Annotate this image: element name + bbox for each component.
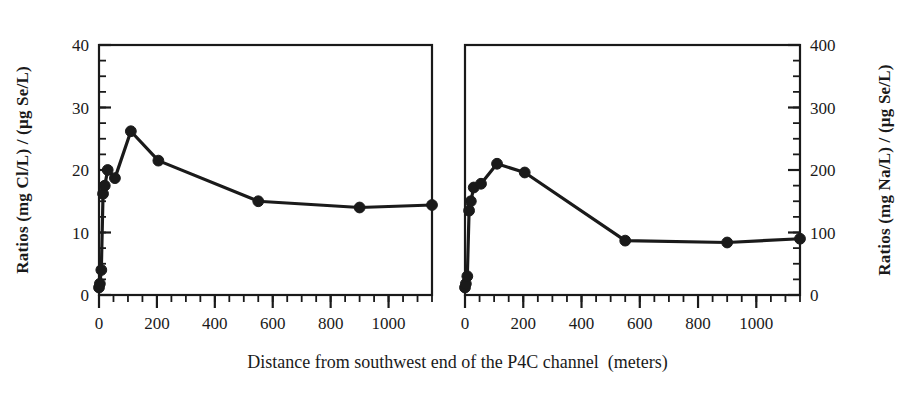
data-point	[125, 126, 136, 137]
data-point	[96, 265, 107, 276]
data-point	[476, 178, 487, 189]
x-tick-label: 600	[627, 314, 653, 333]
x-tick-label: 800	[318, 314, 344, 333]
data-point-markers	[94, 126, 438, 293]
y-tick-label: 0	[81, 286, 90, 305]
data-point	[94, 278, 105, 289]
line-chart-chloride-ratio: 01020304002004006008001000Ratios (mg Cl/…	[0, 0, 450, 345]
data-point	[427, 200, 438, 211]
data-point	[253, 196, 264, 207]
data-point	[99, 180, 110, 191]
y-axis-label: Ratios (mg Na/L) / (µg Se/L)	[875, 64, 894, 275]
y-tick-label: 100	[810, 224, 836, 243]
data-point	[519, 167, 530, 178]
x-axis-label: Distance from southwest end of the P4C c…	[0, 352, 915, 373]
data-point	[620, 235, 631, 246]
line-chart-sodium-ratio: 010020030040002004006008001000Ratios (mg…	[450, 0, 915, 345]
y-tick-label: 300	[810, 99, 836, 118]
y-tick-label: 30	[72, 99, 89, 118]
y-tick-label: 0	[810, 286, 819, 305]
chart-panel-right: 010020030040002004006008001000Ratios (mg…	[450, 0, 915, 345]
y-tick-label: 20	[72, 161, 89, 180]
data-point	[462, 271, 473, 282]
data-point	[354, 202, 365, 213]
y-tick-label: 10	[72, 224, 89, 243]
data-series-line	[99, 131, 432, 287]
x-tick-label: 400	[202, 314, 228, 333]
y-tick-label: 40	[72, 36, 89, 55]
x-tick-label: 0	[95, 314, 104, 333]
x-tick-label: 400	[569, 314, 595, 333]
chart-panel-left: 01020304002004006008001000Ratios (mg Cl/…	[0, 0, 450, 345]
data-point	[465, 196, 476, 207]
y-tick-label: 200	[810, 161, 836, 180]
plot-frame	[99, 45, 432, 295]
y-tick-label: 400	[810, 36, 836, 55]
data-point	[795, 233, 806, 244]
x-tick-label: 800	[685, 314, 711, 333]
data-point	[722, 237, 733, 248]
data-point	[153, 155, 164, 166]
data-point	[492, 158, 503, 169]
y-axis-label: Ratios (mg Cl/L) / (µg Se/L)	[13, 66, 32, 274]
x-tick-label: 200	[144, 314, 170, 333]
x-tick-label: 1000	[372, 314, 406, 333]
x-tick-label: 200	[511, 314, 537, 333]
data-point	[110, 173, 121, 184]
x-tick-label: 1000	[739, 314, 773, 333]
x-tick-label: 600	[260, 314, 286, 333]
data-series-line	[465, 164, 800, 288]
x-tick-label: 0	[461, 314, 470, 333]
data-point-markers	[460, 158, 806, 293]
figure-container: 01020304002004006008001000Ratios (mg Cl/…	[0, 0, 915, 404]
